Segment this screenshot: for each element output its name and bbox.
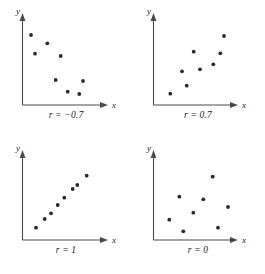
x-axis-label: x — [111, 235, 116, 245]
axes-group: y x — [15, 143, 116, 245]
panel-positive-strong: y x r = 0.7 — [132, 0, 264, 137]
data-point — [45, 41, 49, 45]
data-point — [59, 54, 63, 58]
data-point — [33, 52, 37, 56]
data-point — [43, 217, 47, 221]
data-point — [181, 229, 185, 233]
panel-negative-strong: y x r = −0.7 — [0, 0, 132, 137]
panel-perfect-positive: y x r = 1 — [0, 137, 132, 274]
y-axis-label: y — [146, 6, 151, 16]
data-point — [49, 211, 53, 215]
data-point — [192, 50, 196, 54]
panel-caption: r = 1 — [0, 245, 132, 255]
x-axis-arrow-icon — [230, 237, 238, 243]
data-points-group — [29, 33, 85, 96]
data-point — [77, 92, 81, 96]
data-point — [29, 33, 33, 37]
y-axis-label: y — [15, 6, 20, 16]
data-point — [180, 69, 184, 73]
data-point — [62, 196, 66, 200]
data-point — [167, 218, 171, 222]
x-axis-arrow-icon — [100, 102, 108, 108]
data-point — [56, 203, 60, 207]
data-point — [75, 183, 79, 187]
x-axis-arrow-icon — [230, 102, 238, 108]
data-points-group — [34, 174, 89, 230]
y-axis-label: y — [146, 143, 151, 153]
y-axis-label: y — [15, 143, 20, 153]
data-point — [71, 187, 75, 191]
data-point — [211, 175, 215, 179]
data-point — [177, 195, 181, 199]
axes-group: y x — [146, 143, 246, 245]
data-point — [201, 197, 205, 201]
data-point — [85, 174, 89, 178]
data-point — [216, 226, 220, 230]
x-axis-label: x — [241, 235, 246, 245]
panel-caption: r = 0.7 — [132, 110, 264, 120]
panel-no-correlation: y x r = 0 — [132, 137, 264, 274]
y-axis-arrow-icon — [20, 150, 26, 158]
data-point — [222, 34, 226, 38]
data-points-group — [168, 34, 226, 96]
panel-caption: r = −0.7 — [0, 110, 132, 120]
y-axis-arrow-icon — [151, 150, 157, 158]
data-point — [198, 67, 202, 71]
data-point — [81, 79, 85, 83]
data-point — [211, 62, 215, 66]
y-axis-arrow-icon — [151, 13, 157, 21]
data-point — [34, 226, 38, 230]
data-point — [218, 51, 222, 55]
data-points-group — [167, 175, 230, 233]
x-axis-label: x — [111, 100, 116, 110]
x-axis-label: x — [241, 100, 246, 110]
panel-caption: r = 0 — [132, 245, 264, 255]
data-point — [168, 92, 172, 96]
data-point — [54, 78, 58, 82]
data-point — [66, 90, 70, 94]
data-point — [191, 211, 195, 215]
data-point — [185, 84, 189, 88]
data-point — [226, 205, 230, 209]
y-axis-arrow-icon — [20, 13, 26, 21]
correlation-figure: y x r = −0.7 y x — [0, 0, 265, 274]
axes-group: y x — [146, 6, 246, 110]
axes-group: y x — [15, 6, 116, 110]
x-axis-arrow-icon — [100, 237, 108, 243]
